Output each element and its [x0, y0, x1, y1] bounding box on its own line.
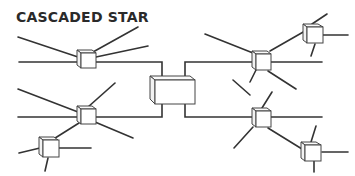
link-central-bottom-left	[95, 104, 162, 117]
link-central-top-right	[185, 62, 253, 76]
hub-bottom-left-sub-box	[39, 137, 59, 157]
hub-top-left-box	[77, 50, 96, 68]
hub-bottom-left-box	[77, 106, 96, 124]
hub-bottom-right-sub-box	[301, 142, 321, 161]
link-central-top-left	[96, 62, 162, 76]
hub-top-right-box	[252, 51, 271, 70]
stubs-bottom-right	[234, 92, 322, 149]
central-hub-box	[150, 76, 195, 104]
stubs-bottom-left	[18, 83, 133, 140]
cascaded-star-diagram	[0, 0, 355, 176]
hub-top-right-sub-box	[303, 24, 323, 43]
link-central-bottom-right	[185, 104, 253, 117]
hub-bottom-right-box	[252, 108, 271, 127]
